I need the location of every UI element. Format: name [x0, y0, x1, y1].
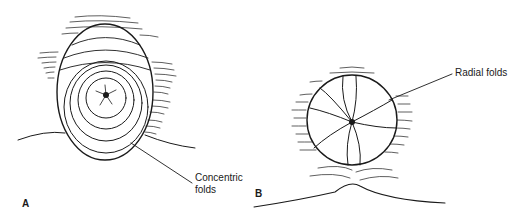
- concentric-folds-label-line2: folds: [195, 184, 243, 196]
- illustration-canvas: [0, 0, 516, 220]
- panel-a-drawing: [18, 16, 195, 183]
- panel-a-concentric-folds: [64, 61, 148, 153]
- panel-a-leader-line: [131, 143, 192, 183]
- concentric-folds-label: Concentric folds: [195, 172, 243, 196]
- radial-folds-label: Radial folds: [455, 67, 507, 79]
- concentric-folds-label-line1: Concentric: [195, 172, 243, 184]
- panel-b-drawing: [254, 67, 452, 207]
- panel-a-letter: A: [22, 198, 29, 209]
- panel-b-letter: B: [255, 188, 262, 199]
- panel-a-center-opening: [96, 85, 116, 105]
- panel-b-leader-line: [389, 74, 452, 100]
- panel-b-center-opening: [349, 119, 355, 125]
